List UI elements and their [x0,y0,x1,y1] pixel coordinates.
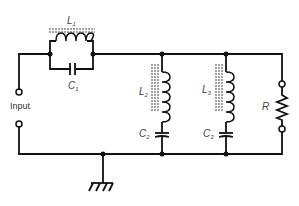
circuit-diagram: L1 C1 L2 C2 L3 C3 [0,0,299,206]
capacitor-c2 [155,122,169,154]
top-wire-left [19,54,50,92]
bottom-wire [19,126,282,154]
l2-label: L2 [139,86,149,98]
capacitor-c1 [50,54,93,75]
ground-icon [89,154,113,191]
junction-dot [224,52,229,57]
junction-dot [91,52,96,57]
junction-dot [224,152,229,157]
l1-label: L1 [67,15,76,27]
input-label: Input [10,101,31,111]
top-wire-right [93,54,282,82]
junction-dot [160,52,165,57]
inductor-l3 [216,54,234,122]
inductor-l1 [49,29,95,54]
resistor-r [277,81,287,132]
r-label: R [262,101,269,112]
c2-label: C2 [139,128,150,140]
input-terminal-bottom [16,121,22,127]
c1-label: C1 [68,80,79,92]
l3-label: L3 [202,84,212,96]
junction-dot [160,152,165,157]
capacitor-c3 [219,122,233,154]
junction-dot [48,52,53,57]
inductor-l2 [152,54,170,122]
c3-label: C3 [203,128,214,140]
input-terminal-top [16,89,22,95]
